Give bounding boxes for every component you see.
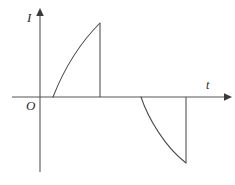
current-axis bbox=[36, 8, 44, 172]
waveform-plot bbox=[0, 0, 235, 185]
current-axis-label: I bbox=[27, 11, 31, 24]
positive-half-cycle-arc bbox=[53, 23, 100, 97]
current-axis-arrowhead bbox=[36, 8, 44, 16]
time-axis bbox=[12, 93, 232, 101]
negative-half-cycle-arc bbox=[141, 97, 186, 163]
time-axis-label: t bbox=[206, 79, 209, 91]
origin-label: O bbox=[26, 99, 35, 112]
time-axis-arrowhead bbox=[224, 93, 232, 101]
waveform-figure: I t O bbox=[0, 0, 235, 185]
